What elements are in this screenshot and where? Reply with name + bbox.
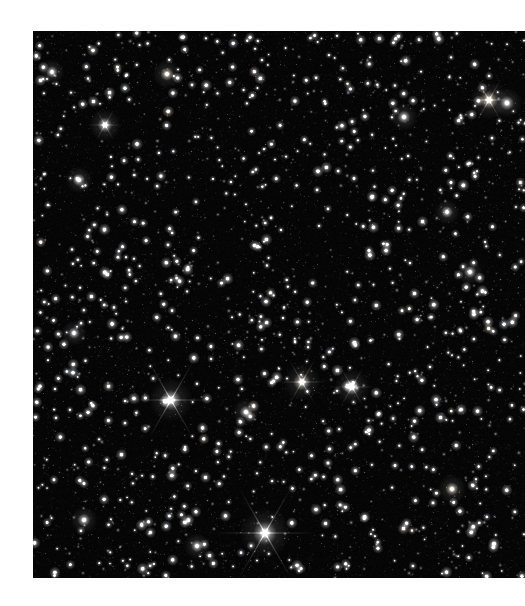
starfield-image-frame: [33, 31, 525, 578]
starfield-canvas: [33, 31, 525, 578]
page-root: Astronomical photograph of a dense field…: [0, 0, 525, 606]
